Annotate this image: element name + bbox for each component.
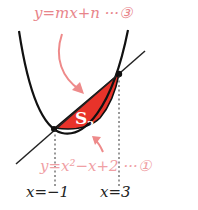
region-label: S2 bbox=[75, 108, 94, 130]
diagram-canvas bbox=[0, 0, 198, 210]
arrow-to-line bbox=[59, 34, 80, 90]
arrow-head-line-icon bbox=[72, 82, 84, 94]
x-marker-3: x=3 bbox=[100, 183, 131, 201]
parabola-equation-label: y=x²−x+2 ···① bbox=[40, 157, 151, 175]
x-marker-neg1: x=−1 bbox=[26, 183, 69, 201]
intersection-point-left bbox=[51, 126, 57, 132]
line-equation-label: y=mx+n ···③ bbox=[34, 4, 132, 22]
arrow-head-parabola-icon bbox=[92, 136, 101, 145]
